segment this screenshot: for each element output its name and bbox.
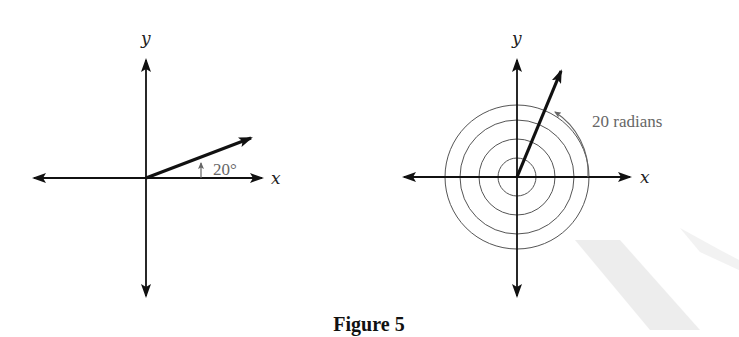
left-panel: 20° x y [34,28,281,296]
angle-arc-icon [555,112,588,177]
y-axis-label: y [140,28,151,48]
figure-canvas: 20° x y 20 radians x y Figure 5 [0,0,739,337]
figure-caption: Figure 5 [333,313,404,336]
terminal-side-vector [517,71,561,177]
scan-artifact [575,228,739,330]
x-axis-label: x [271,168,281,188]
x-axis-label: x [640,167,650,187]
angle-label: 20 radians [592,112,662,131]
angle-label: 20° [213,160,237,179]
y-axis-label: y [511,28,522,48]
